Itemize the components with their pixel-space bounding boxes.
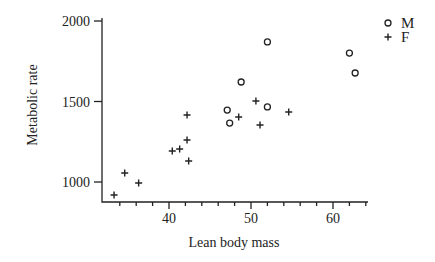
data-point-m (352, 70, 358, 76)
y-axis-label: Metabolic rate (25, 64, 40, 145)
data-point-m (346, 50, 352, 56)
data-point-m (238, 79, 244, 85)
y-tick-label: 1500 (62, 95, 90, 110)
legend-label: F (401, 29, 409, 45)
legend: MF (385, 15, 415, 45)
data-point-f (285, 108, 292, 115)
y-tick-label: 2000 (62, 14, 90, 29)
data-points (111, 39, 359, 199)
data-point-f (111, 192, 118, 199)
data-point-f (169, 147, 176, 154)
scatter-chart: 100015002000405060 MF Lean body mass Met… (0, 0, 435, 262)
data-point-m (224, 107, 230, 113)
x-tick-label: 50 (244, 211, 258, 226)
legend-marker-m-circle-icon (385, 20, 391, 26)
x-tick-label: 60 (326, 211, 340, 226)
data-point-f (184, 136, 191, 143)
legend-marker-f-plus-icon (385, 34, 392, 41)
data-point-m (264, 39, 270, 45)
data-point-f (185, 158, 192, 165)
data-point-f (135, 179, 142, 186)
x-axis-label: Lean body mass (189, 235, 280, 250)
data-point-m (264, 104, 270, 110)
data-point-f (121, 169, 128, 176)
y-tick-label: 1000 (62, 175, 90, 190)
axis-lines (102, 18, 368, 202)
data-point-f (257, 122, 264, 129)
data-point-f (176, 145, 183, 152)
data-point-f (184, 112, 191, 119)
axes: 100015002000405060 (62, 14, 368, 226)
data-point-f (235, 113, 242, 120)
data-point-m (227, 120, 233, 126)
x-tick-label: 40 (162, 211, 176, 226)
data-point-f (252, 98, 259, 105)
